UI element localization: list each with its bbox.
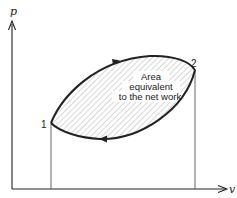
y-axis: p [9,5,18,189]
pv-diagram: p v 1 2 Area equivalent to the net work [0,0,237,198]
area-text-line-3: to the net work [119,91,182,102]
y-axis-label: p [10,5,17,18]
x-axis: v [12,183,236,196]
point-label-1: 1 [41,119,47,130]
point-label-2: 2 [191,58,197,69]
x-axis-label: v [229,183,236,196]
